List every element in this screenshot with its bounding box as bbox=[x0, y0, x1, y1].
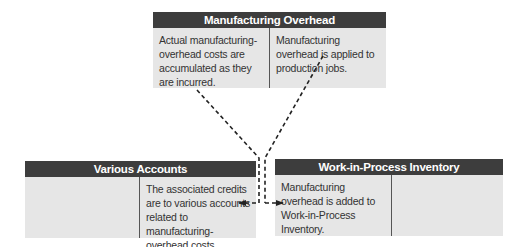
dashed-line-credit-to-wip bbox=[265, 56, 323, 203]
flow-arrows bbox=[0, 0, 526, 247]
dashed-line-debit-to-various bbox=[197, 90, 259, 203]
